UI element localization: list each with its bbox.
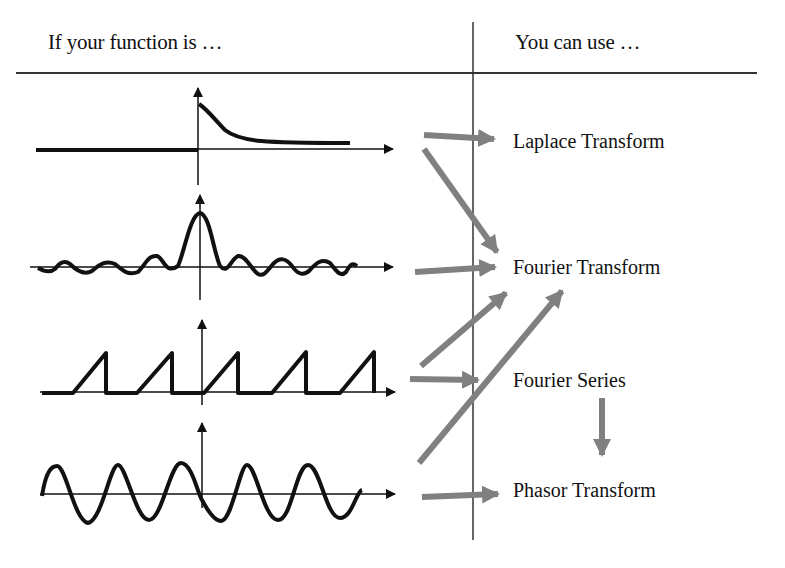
arrow-sinc-to-fourier-transform-icon bbox=[415, 267, 495, 272]
arrow-exponential-to-laplace-icon bbox=[424, 135, 494, 139]
arrow-sinusoid-to-phasor-icon bbox=[422, 494, 498, 497]
plot-decaying-exponential bbox=[36, 88, 393, 185]
mapping-arrows bbox=[410, 135, 602, 497]
plot-sinc bbox=[30, 195, 393, 300]
plot-sinusoid bbox=[40, 423, 395, 523]
transform-selection-diagram bbox=[0, 0, 785, 568]
arrow-sawtooth-to-fourier-transform-icon bbox=[421, 293, 506, 366]
arrow-exponential-to-fourier-transform-icon bbox=[424, 149, 497, 252]
arrow-sawtooth-to-fourier-series-icon bbox=[410, 379, 478, 380]
plot-periodic-sawtooth bbox=[40, 320, 395, 405]
